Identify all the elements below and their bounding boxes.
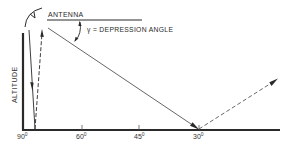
- nadir-transmit-ray: [29, 30, 35, 129]
- depression-angle-label: γ = DEPRESSION ANGLE: [87, 27, 173, 34]
- x-tick-30-value: 30: [193, 133, 201, 140]
- radar-geometry-diagram: [0, 0, 284, 144]
- x-tick-30-degree: 0: [201, 131, 204, 137]
- antenna-beam-arc-icon: [25, 8, 42, 27]
- x-tick-label-60: 600: [76, 133, 87, 140]
- x-tick-90-degree: 0: [25, 131, 28, 137]
- reflected-arrow-icon: [269, 79, 278, 87]
- reflected-ray: [199, 82, 273, 129]
- antenna-label: ANTENNA: [48, 11, 84, 18]
- angle-arrow-top-icon: [78, 21, 81, 26]
- x-tick-45-value: 45: [134, 133, 142, 140]
- y-axis-label: ALTITUDE: [11, 66, 18, 103]
- up-arrow-icon: [40, 29, 44, 37]
- x-tick-label-90: 900: [17, 133, 28, 140]
- x-tick-60-degree: 0: [84, 131, 87, 137]
- slant-transmit-ray: [48, 28, 197, 128]
- down-arrow-icon: [30, 82, 33, 91]
- x-tick-60-value: 60: [76, 133, 84, 140]
- x-tick-45-degree: 0: [142, 131, 145, 137]
- nadir-return-ray: [35, 33, 42, 129]
- slant-arrow-icon: [190, 122, 199, 129]
- x-tick-label-45: 450: [134, 133, 145, 140]
- x-tick-label-30: 300: [193, 133, 204, 140]
- x-tick-90-value: 90: [17, 133, 25, 140]
